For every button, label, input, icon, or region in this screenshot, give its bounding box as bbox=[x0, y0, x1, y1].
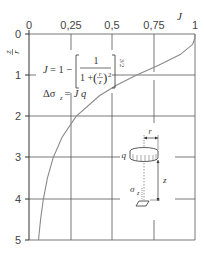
y-tick-5: 5 bbox=[15, 234, 21, 246]
x-tick-075: 0,75 bbox=[143, 19, 164, 31]
svg-text:1 +: 1 + bbox=[80, 72, 94, 83]
y-tick-2: 2 bbox=[15, 110, 21, 122]
svg-text:J: J bbox=[43, 64, 49, 75]
y-tick-1: 1 bbox=[15, 69, 21, 81]
formula-J: J = 1 − 1 1 + ( r z ) 2 3/2 bbox=[43, 55, 126, 88]
x-tick-0: 0 bbox=[26, 19, 32, 31]
x-tick-05: 0,5 bbox=[104, 19, 119, 31]
y-tick-4: 4 bbox=[15, 193, 21, 205]
svg-text:q: q bbox=[122, 150, 127, 160]
influence-chart: 0 0,25 0,5 0,75 1 J 0 1 2 3 4 5 z r J = … bbox=[0, 0, 204, 257]
grid-vertical bbox=[71, 34, 195, 240]
stress-equation: Δσ z = J q bbox=[43, 88, 86, 101]
y-tick-0: 0 bbox=[15, 28, 21, 40]
svg-text:(: ( bbox=[93, 70, 97, 85]
svg-text:z: z bbox=[136, 190, 140, 196]
x-tick-025: 0,25 bbox=[60, 19, 81, 31]
svg-text:1: 1 bbox=[94, 55, 99, 66]
load-illustration: r q z σ z bbox=[122, 127, 168, 206]
svg-text:z: z bbox=[59, 94, 63, 101]
x-axis-label: J bbox=[177, 10, 183, 22]
svg-text:= J q: = J q bbox=[64, 88, 86, 99]
svg-text:z: z bbox=[162, 175, 167, 185]
svg-text:2: 2 bbox=[108, 71, 112, 79]
svg-text:Δσ: Δσ bbox=[43, 88, 56, 99]
svg-text:r: r bbox=[11, 50, 21, 54]
svg-text:r: r bbox=[148, 127, 152, 136]
svg-text:r: r bbox=[99, 70, 102, 78]
svg-text:z: z bbox=[98, 78, 102, 86]
svg-text:): ) bbox=[103, 70, 107, 85]
y-axis-label: z r bbox=[3, 49, 21, 55]
svg-text:= 1 −: = 1 − bbox=[50, 64, 72, 75]
svg-text:3/2: 3/2 bbox=[119, 59, 126, 67]
svg-text:σ: σ bbox=[130, 184, 135, 194]
y-tick-3: 3 bbox=[15, 151, 21, 163]
x-tick-1: 1 bbox=[192, 19, 198, 31]
